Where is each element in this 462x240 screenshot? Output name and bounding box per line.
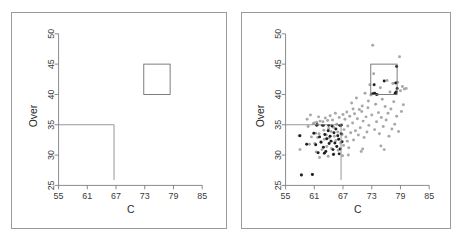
scatter-point: [323, 152, 326, 155]
scatter-point: [378, 132, 381, 135]
scatter-point: [402, 103, 405, 106]
scatter-point: [401, 85, 404, 88]
left-upper-right-region-box: [144, 64, 170, 94]
left-xtick-label-61: 61: [82, 191, 92, 201]
scatter-point: [388, 91, 391, 94]
scatter-point: [317, 115, 320, 118]
scatter-point: [344, 135, 347, 138]
left-xtick-label-55: 55: [54, 191, 64, 201]
scatter-point: [391, 82, 394, 85]
scatter-point: [338, 152, 341, 155]
scatter-point: [351, 121, 354, 124]
scatter-point: [374, 103, 377, 106]
scatter-point: [333, 141, 336, 144]
scatter-point: [325, 145, 328, 148]
left-ytick-label-35: 35: [46, 120, 56, 130]
left-ytick-label-25: 25: [46, 180, 56, 190]
left-ytick-label-30: 30: [46, 150, 56, 160]
scatter-point: [341, 154, 344, 157]
scatter-point: [382, 125, 385, 128]
left-x-axis-title: C: [127, 204, 135, 215]
left-axes: [55, 34, 203, 190]
scatter-point: [397, 130, 400, 133]
scatter-point: [321, 120, 324, 123]
scatter-point: [373, 128, 376, 131]
scatter-point: [331, 118, 334, 121]
scatter-point: [372, 72, 375, 75]
scatter-point: [307, 125, 310, 128]
left-partition-lines: [59, 125, 114, 180]
right-ytick-label-35: 35: [273, 120, 283, 130]
right-ytick-label-40: 40: [273, 89, 283, 99]
scatter-point: [318, 135, 321, 138]
right-panel-plot: 25 30 35 40 45 50 55 61 67 73 79 85 C Ov…: [242, 13, 450, 228]
figure-container: 25 30 35 40 45 50 55 61 67 73 79 85 C Ov…: [0, 0, 462, 240]
scatter-point: [323, 133, 326, 136]
right-ytick-label-50: 50: [273, 29, 283, 39]
right-ytick-label-25: 25: [273, 180, 283, 190]
scatter-point: [405, 87, 408, 90]
scatter-point: [370, 114, 373, 117]
scatter-point: [353, 112, 356, 115]
scatter-point: [367, 124, 370, 127]
scatter-point: [308, 143, 311, 146]
scatter-point: [342, 144, 345, 147]
scatter-point: [318, 156, 321, 159]
scatter-point: [357, 134, 360, 137]
scatter-point: [392, 100, 395, 103]
scatter-point: [387, 112, 390, 115]
scatter-point: [330, 130, 333, 133]
scatter-point: [377, 111, 380, 114]
scatter-point: [361, 148, 364, 151]
scatter-point: [322, 146, 325, 149]
scatter-point: [365, 115, 368, 118]
left-ytick-label-50: 50: [46, 29, 56, 39]
scatter-point: [359, 126, 362, 129]
scatter-point: [300, 174, 303, 177]
scatter-point: [329, 135, 332, 138]
right-xtick-label-85: 85: [424, 191, 434, 201]
scatter-point: [322, 129, 325, 132]
scatter-point: [327, 155, 330, 158]
scatter-point: [347, 154, 350, 157]
scatter-point: [390, 128, 393, 131]
scatter-point: [336, 131, 339, 134]
scatter-point: [400, 110, 403, 113]
scatter-point: [383, 80, 386, 83]
scatter-point: [364, 92, 367, 95]
scatter-point: [352, 108, 355, 111]
scatter-point: [347, 146, 350, 149]
scatter-point: [361, 104, 364, 107]
left-xtick-label-79: 79: [169, 191, 179, 201]
scatter-point: [346, 140, 349, 143]
scatter-point: [371, 44, 374, 47]
scatter-point: [320, 141, 323, 144]
right-xtick-label-55: 55: [281, 191, 291, 201]
scatter-point: [317, 151, 320, 154]
scatter-point: [310, 135, 313, 138]
right-xtick-label-67: 67: [338, 191, 348, 201]
right-upper-right-region-box: [371, 64, 397, 94]
scatter-point: [337, 138, 340, 141]
right-y-tick-labels: 25 30 35 40 45 50: [273, 29, 283, 191]
scatter-point: [333, 135, 336, 138]
right-ytick-label-30: 30: [273, 150, 283, 160]
scatter-point: [355, 97, 358, 100]
scatter-point: [327, 129, 330, 132]
scatter-point: [334, 112, 337, 115]
scatter-point: [395, 65, 398, 68]
scatter-point: [309, 114, 312, 117]
right-xtick-label-79: 79: [396, 191, 406, 201]
scatter-point: [358, 108, 361, 111]
scatter-point: [306, 118, 309, 121]
scatter-point: [346, 124, 349, 127]
scatter-point: [385, 118, 388, 121]
scatter-point: [379, 86, 382, 89]
scatter-point: [365, 131, 368, 134]
left-x-tick-labels: 55 61 67 73 79 85: [54, 191, 208, 201]
scatter-point: [305, 143, 308, 146]
scatter-point: [335, 145, 338, 148]
scatter-point: [367, 100, 370, 103]
scatter-point: [398, 55, 401, 58]
right-ytick-label-45: 45: [273, 59, 283, 69]
